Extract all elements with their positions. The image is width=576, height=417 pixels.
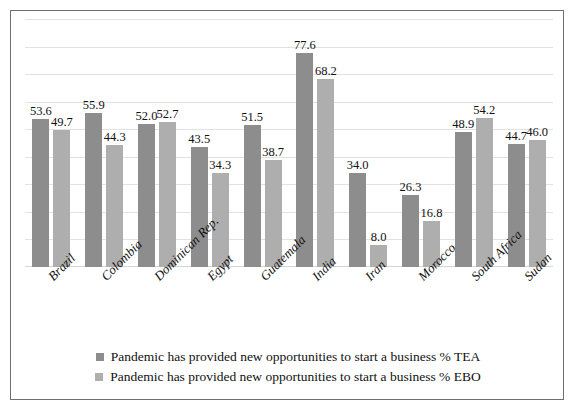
bar-value-label: 52.0 [136,110,158,123]
bar-ebo[interactable] [159,122,176,267]
bar-wrapper: 8.0 [370,19,387,267]
x-label-slot: Dominican Rep. [131,269,184,347]
bar-tea[interactable] [349,173,366,267]
bar-wrapper: 51.5 [244,19,261,267]
x-label-slot: Egypt [183,269,236,347]
bar-value-label: 34.0 [347,159,369,172]
bar-group: 48.954.2 [447,19,500,267]
bar-wrapper: 52.0 [138,19,155,267]
x-label-slot: India [289,269,342,347]
bar-wrapper: 34.0 [349,19,366,267]
bar-value-label: 34.3 [209,159,231,172]
bar-wrapper: 68.2 [317,19,334,267]
bar-wrapper: 26.3 [402,19,419,267]
bar-tea[interactable] [402,195,419,267]
bar-wrapper: 52.7 [159,19,176,267]
bar-group: 44.746.0 [500,19,553,267]
bar-ebo[interactable] [529,140,546,267]
bar-wrapper: 16.8 [423,19,440,267]
x-label-slot: South Africa [447,269,500,347]
bar-ebo[interactable] [317,79,334,267]
bars-layer: 53.649.755.944.352.052.743.534.351.538.7… [25,19,553,267]
bar-value-label: 77.6 [294,39,316,52]
bar-wrapper: 46.0 [529,19,546,267]
x-label-slot: Iran [342,269,395,347]
bar-tea[interactable] [244,125,261,267]
x-label-slot: Guatemala [236,269,289,347]
bar-wrapper: 49.7 [53,19,70,267]
legend-label: Pandemic has provided new opportunities … [111,349,480,365]
bar-value-label: 26.3 [400,181,422,194]
legend-item[interactable]: Pandemic has provided new opportunities … [96,349,480,365]
x-label-slot: Brazil [25,269,78,347]
bar-wrapper: 38.7 [265,19,282,267]
legend-swatch-icon [95,373,103,381]
bar-group: 51.538.7 [236,19,289,267]
bar-tea[interactable] [455,132,472,267]
x-axis-labels: BrazilColombiaDominican Rep.EgyptGuatema… [25,269,553,347]
bar-group: 52.052.7 [131,19,184,267]
plot-area: 53.649.755.944.352.052.743.534.351.538.7… [25,19,553,267]
bar-value-label: 16.8 [421,207,443,220]
bar-value-label: 8.0 [371,231,387,244]
bar-group: 53.649.7 [25,19,78,267]
bar-wrapper: 53.6 [32,19,49,267]
bar-value-label: 48.9 [452,118,474,131]
bar-wrapper: 48.9 [455,19,472,267]
x-label-slot: Colombia [78,269,131,347]
bar-group: 34.08.0 [342,19,395,267]
bar-value-label: 46.0 [526,126,548,139]
bar-group: 77.668.2 [289,19,342,267]
bar-value-label: 54.2 [473,104,495,117]
bar-value-label: 49.7 [51,116,73,129]
bar-value-label: 68.2 [315,65,337,78]
bar-wrapper: 77.6 [296,19,313,267]
bar-tea[interactable] [85,113,102,267]
bar-group: 26.316.8 [395,19,448,267]
figure-frame: 53.649.755.944.352.052.743.534.351.538.7… [10,10,564,400]
chart-legend: Pandemic has provided new opportunities … [11,349,565,385]
x-label-slot: Morocco [395,269,448,347]
bar-ebo[interactable] [53,130,70,267]
bar-wrapper: 44.3 [106,19,123,267]
legend-swatch-icon [96,353,104,361]
bar-group: 55.944.3 [78,19,131,267]
bar-value-label: 55.9 [83,99,105,112]
bar-wrapper: 55.9 [85,19,102,267]
bar-value-label: 51.5 [241,111,263,124]
bar-value-label: 44.7 [505,130,527,143]
bar-tea[interactable] [32,119,49,267]
legend-item[interactable]: Pandemic has provided new opportunities … [95,369,480,385]
x-label-slot: Sudan [500,269,553,347]
legend-label: Pandemic has provided new opportunities … [110,369,480,385]
bar-ebo[interactable] [476,118,493,267]
bar-value-label: 44.3 [104,131,126,144]
bar-wrapper: 54.2 [476,19,493,267]
bar-value-label: 52.7 [157,108,179,121]
bar-value-label: 43.5 [188,133,210,146]
bar-value-label: 38.7 [262,146,284,159]
bar-value-label: 53.6 [30,105,52,118]
